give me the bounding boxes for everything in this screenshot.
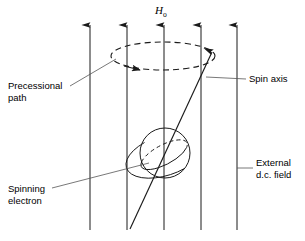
- diagram-canvas: H o Precessional path Spinning electron …: [0, 0, 305, 241]
- spinning-electron-sphere: [126, 128, 190, 178]
- leader-lines: [52, 59, 253, 188]
- label-precessional-path-line2: path: [8, 92, 27, 103]
- label-precessional-path-line1: Precessional: [8, 80, 62, 91]
- label-spin-axis: Spin axis: [249, 73, 288, 84]
- label-external-field-line2: d.c. field: [256, 169, 291, 180]
- label-external-field-line1: External: [256, 157, 291, 168]
- label-spinning-electron-line2: electron: [8, 195, 42, 206]
- h0-symbol-subscript: o: [163, 10, 167, 19]
- spin-precession-diagram: H o Precessional path Spinning electron …: [0, 0, 305, 241]
- leader-precessional-path: [70, 59, 116, 86]
- label-spinning-electron-line1: Spinning: [8, 183, 45, 194]
- spin-axis-arrow: [130, 52, 212, 229]
- labels: H o Precessional path Spinning electron …: [8, 4, 291, 206]
- leader-spin-axis: [206, 77, 246, 79]
- electron-meridian-arc: [126, 143, 185, 179]
